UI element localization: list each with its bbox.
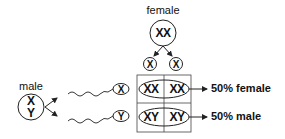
female-arrow-right [163,46,172,56]
male-arrow-up [45,98,57,107]
punnett-cell-2-1: XY [143,110,158,124]
male-label: male [19,80,43,92]
punnett-cell-1-2: XX [169,82,184,96]
female-gamete-1-label: X [147,59,154,70]
sex-determination-diagram: female XX X X male X Y X Y XX XX XY XY 5… [0,0,285,139]
male-genotype-y: Y [27,107,35,119]
sperm-y-tail [68,116,113,123]
result-female: 50% female [211,82,271,94]
female-gamete-2-label: X [173,59,180,70]
female-genotype: XX [155,26,170,40]
female-label: female [146,4,179,16]
punnett-cell-2-2: XY [169,110,184,124]
female-arrow-left [154,46,163,56]
sperm-x-label: X [118,84,125,95]
sperm-x-tail [68,89,113,96]
result-male: 50% male [211,110,261,122]
punnett-cell-1-1: XX [143,82,158,96]
male-arrow-down [45,107,57,116]
sperm-y-label: Y [118,111,125,122]
